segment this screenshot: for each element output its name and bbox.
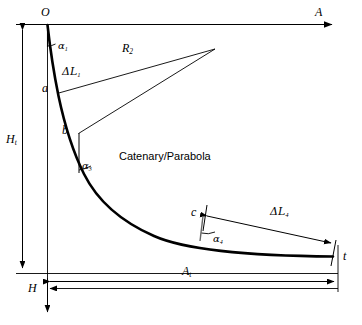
angle-label-alpha3: α3 [82, 161, 92, 171]
delta-l4-symbol: ΔL [270, 205, 285, 218]
delta-l1-symbol: ΔL [62, 65, 77, 78]
alpha3-symbol: α [82, 160, 89, 171]
segment-label-r2: R2 [122, 42, 133, 54]
dimension-label-ht: Ht [6, 133, 17, 145]
catenary-curve [48, 25, 334, 257]
point-label-t: t [343, 250, 346, 262]
r2-subscript: 2 [129, 47, 133, 56]
alpha4-symbol: α [213, 233, 220, 244]
r2-radius-line [79, 49, 216, 134]
ht-subscript: t [15, 138, 17, 147]
angle-label-alpha4: α4 [213, 234, 223, 244]
alpha1-subscript: 1 [65, 46, 68, 52]
dimension-label-h: H [28, 282, 37, 294]
point-label-O: O [41, 6, 50, 18]
point-label-b: b [62, 124, 68, 136]
angle-label-alpha1: α1 [58, 41, 68, 51]
delta-l4-subscript: 4 [285, 211, 288, 218]
curve-label-catenary-parabola: Catenary/Parabola [119, 151, 211, 162]
dimension-label-at: At [182, 265, 191, 277]
segment-label-delta-l1: ΔL1 [62, 66, 81, 77]
axis-label-A: A [315, 6, 322, 18]
diagram-canvas: O A α1 a ΔL1 R2 b α3 Catenary/Parabola c… [0, 0, 362, 325]
delta-l1-subscript: 1 [77, 71, 80, 78]
alpha1-symbol: α [58, 40, 65, 51]
alpha4-subscript: 4 [220, 239, 223, 245]
delta-l4-dimension-line [207, 216, 331, 243]
point-label-c: c [191, 206, 196, 218]
point-label-a: a [42, 82, 48, 94]
diagram-vector-layer [0, 0, 362, 325]
ht-symbol: H [6, 132, 15, 146]
alpha3-subscript: 3 [89, 166, 92, 172]
segment-label-delta-l4: ΔL4 [270, 206, 289, 217]
